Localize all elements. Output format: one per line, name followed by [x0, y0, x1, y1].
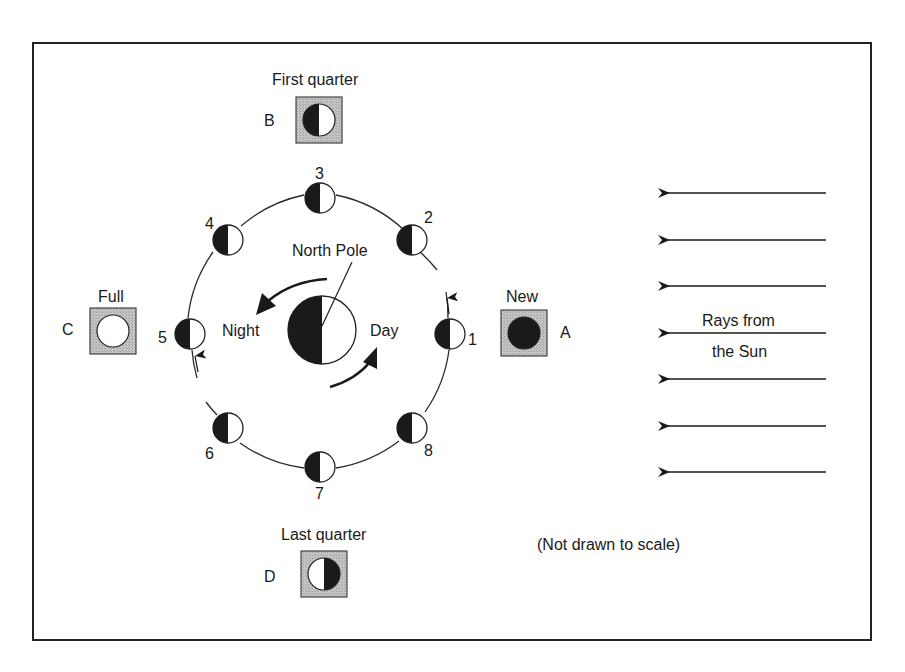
- position-label-1: 1: [468, 331, 477, 348]
- position-label-4: 4: [205, 215, 214, 232]
- moon-position-7: [305, 452, 335, 482]
- phase-letter-d: D: [264, 568, 276, 585]
- moon-phases-diagram: 1 2 3 4 5 6 7 8 North Pole Night Day Fir…: [0, 0, 905, 672]
- phase-box-first-quarter: [296, 97, 342, 143]
- moon-position-5: [175, 319, 205, 349]
- position-label-7: 7: [315, 485, 324, 502]
- position-label-8: 8: [424, 442, 433, 459]
- sun-rays: [668, 193, 826, 472]
- moon-position-6: [213, 413, 243, 443]
- phase-name-first-quarter: First quarter: [272, 71, 359, 88]
- position-label-2: 2: [424, 209, 433, 226]
- phase-name-last-quarter: Last quarter: [281, 526, 367, 543]
- not-to-scale-note: (Not drawn to scale): [537, 536, 680, 553]
- phase-name-new: New: [506, 288, 538, 305]
- night-label: Night: [222, 322, 260, 339]
- rotation-arrow-day: [330, 362, 370, 387]
- position-label-3: 3: [315, 165, 324, 182]
- phase-letter-a: A: [560, 324, 571, 341]
- moon-position-1: [435, 319, 465, 349]
- north-pole-label: North Pole: [292, 242, 368, 259]
- phase-letter-c: C: [62, 321, 74, 338]
- phase-letter-b: B: [264, 112, 275, 129]
- moon-position-2: [397, 225, 427, 255]
- phase-box-full: [90, 308, 136, 354]
- moon-position-4: [213, 225, 243, 255]
- sun-label-line1: Rays from: [702, 312, 775, 329]
- moon-position-3: [305, 183, 335, 213]
- day-label: Day: [370, 322, 398, 339]
- sun-label-line2: the Sun: [712, 343, 767, 360]
- earth: [288, 296, 356, 364]
- phase-box-new: [501, 310, 547, 356]
- moon-position-8: [397, 413, 427, 443]
- phase-name-full: Full: [98, 288, 124, 305]
- position-label-5: 5: [158, 329, 167, 346]
- position-label-6: 6: [205, 445, 214, 462]
- phase-box-last-quarter: [301, 551, 347, 597]
